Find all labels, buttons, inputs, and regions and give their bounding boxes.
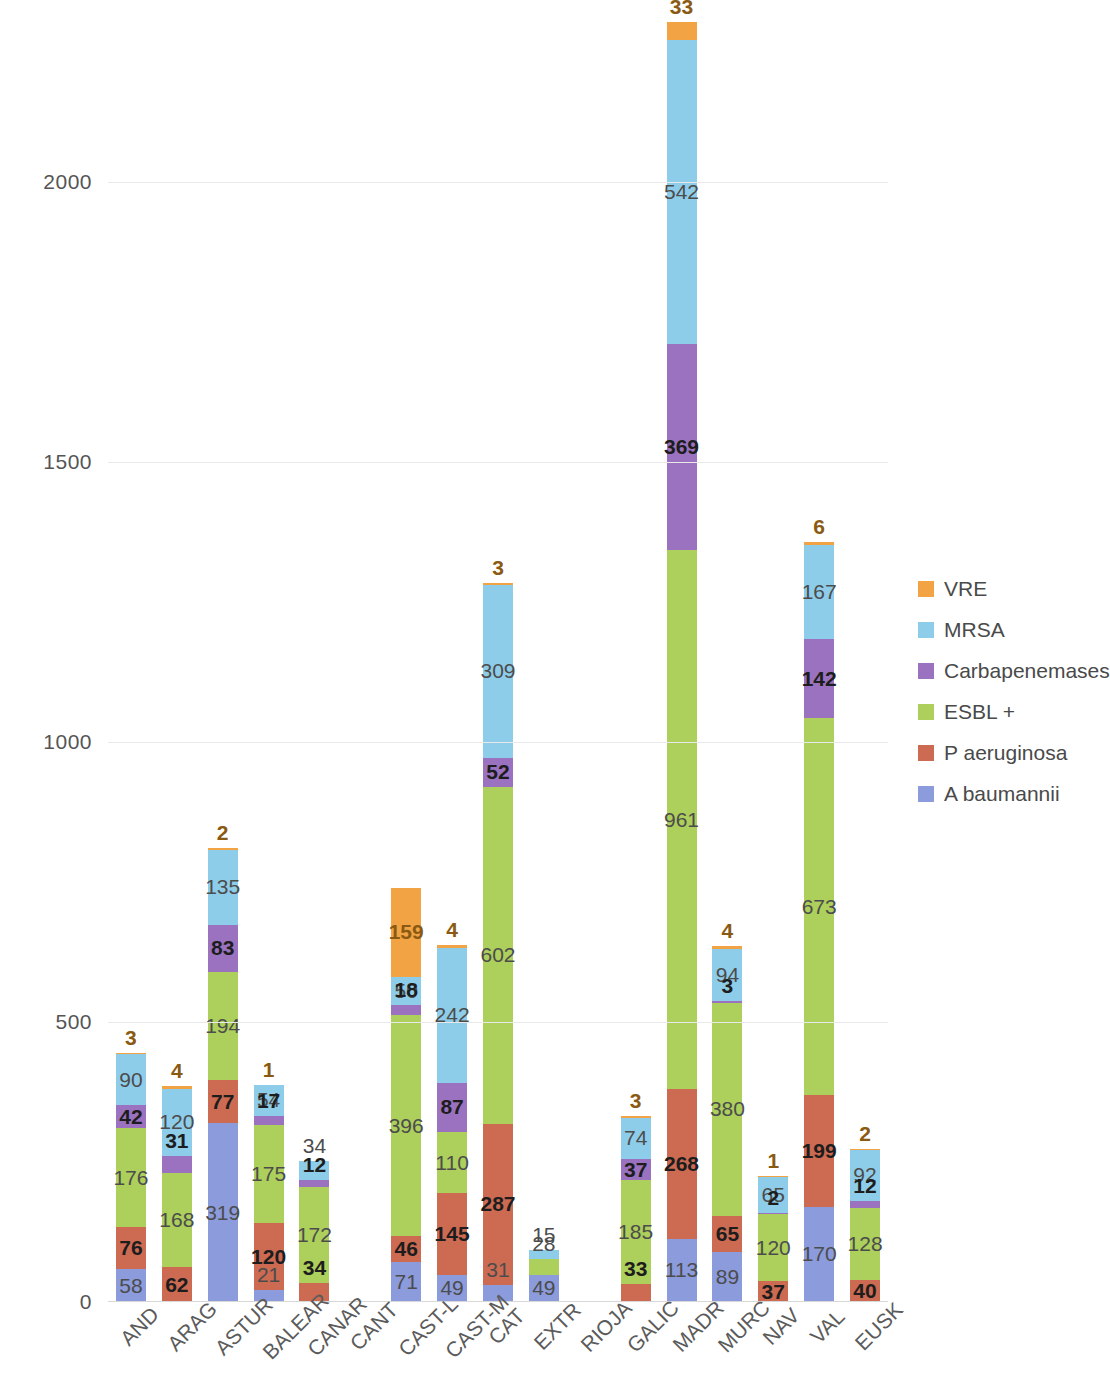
stacked-bar[interactable]: 21358319477319: [208, 848, 238, 1302]
stacked-bar[interactable]: 390421767658: [116, 1053, 146, 1302]
bar-segment[interactable]: 42: [116, 1105, 146, 1129]
bar-segment[interactable]: 37: [621, 1159, 651, 1180]
legend-item[interactable]: VRE: [918, 568, 1103, 609]
segment-value-label: 3: [492, 556, 504, 580]
segment-value-label: 961: [664, 808, 699, 832]
bar-segment[interactable]: 76: [116, 1227, 146, 1270]
bar-segment[interactable]: 28: [529, 1259, 559, 1275]
segment-value-label: 268: [664, 1152, 699, 1176]
bar-segment[interactable]: 90: [116, 1054, 146, 1104]
bar-segment[interactable]: 71: [391, 1262, 421, 1302]
bar-segment[interactable]: 17: [254, 1116, 284, 1126]
segment-value-label: 94: [716, 963, 739, 987]
bar-segment[interactable]: 369: [667, 344, 697, 551]
segment-value-label: 185: [618, 1220, 653, 1244]
legend-label: VRE: [944, 577, 987, 601]
bar-segment[interactable]: 113: [667, 1239, 697, 1302]
bar-segment[interactable]: 242: [437, 948, 467, 1084]
bar-segment[interactable]: 268: [667, 1089, 697, 1239]
bar-segment[interactable]: 34: [299, 1161, 329, 1180]
bar-segment[interactable]: 110: [437, 1132, 467, 1194]
x-axis-tick-text: EUSK: [850, 1298, 907, 1355]
bar-segment[interactable]: 120: [758, 1214, 788, 1281]
bar-segment[interactable]: 15: [529, 1250, 559, 1258]
bar-segment[interactable]: 50: [391, 977, 421, 1005]
stacked-bar[interactable]: 49433806589: [712, 946, 742, 1302]
bar-segment[interactable]: 54: [254, 1085, 284, 1115]
stacked-bar[interactable]: 15950183964671: [391, 888, 421, 1302]
bar-segment[interactable]: 175: [254, 1125, 284, 1223]
bar-slot: 1541717512021: [246, 14, 292, 1302]
stacked-bar[interactable]: 6167142673199170: [804, 542, 834, 1302]
bar-segment[interactable]: 309: [483, 585, 513, 758]
bar-segment[interactable]: 52: [483, 758, 513, 787]
bar-segment[interactable]: 167: [804, 545, 834, 639]
stacked-bar[interactable]: 2921212840: [850, 1149, 880, 1302]
stacked-bar[interactable]: 3743718533: [621, 1116, 651, 1302]
bar-segment[interactable]: 145: [437, 1193, 467, 1274]
bar-segment[interactable]: 33: [667, 22, 697, 40]
y-axis: 0500100015002000: [0, 14, 104, 1302]
bar-segment[interactable]: 142: [804, 639, 834, 719]
bar-segment[interactable]: 87: [437, 1083, 467, 1132]
legend-item[interactable]: Carbapenemases: [918, 650, 1103, 691]
bar-segment[interactable]: 120: [254, 1223, 284, 1290]
bar-segment[interactable]: 172: [299, 1187, 329, 1283]
bar-segment[interactable]: 18: [391, 1005, 421, 1015]
stacked-bar[interactable]: 341217234: [299, 1161, 329, 1302]
stacked-bar[interactable]: 42428711014549: [437, 945, 467, 1302]
bar-segment[interactable]: 287: [483, 1124, 513, 1285]
bar-segment[interactable]: 89: [712, 1252, 742, 1302]
bar-segment[interactable]: 33: [621, 1284, 651, 1302]
bar-segment[interactable]: 12: [299, 1180, 329, 1187]
bar-segment[interactable]: 12: [850, 1201, 880, 1208]
bar-segment[interactable]: 83: [208, 925, 238, 971]
segment-value-label: 40: [853, 1279, 876, 1303]
segment-value-label: 287: [480, 1192, 515, 1216]
stacked-bar[interactable]: 152849: [529, 1250, 559, 1302]
bar-segment[interactable]: 168: [162, 1173, 192, 1267]
bar-segment[interactable]: 74: [621, 1118, 651, 1159]
bar-segment[interactable]: 542: [667, 40, 697, 344]
bar-segment[interactable]: 185: [621, 1180, 651, 1284]
bar-segment[interactable]: 77: [208, 1080, 238, 1123]
bar-segment[interactable]: 194: [208, 972, 238, 1081]
stacked-bar[interactable]: 165212037: [758, 1176, 788, 1302]
bar-segment[interactable]: 49: [529, 1275, 559, 1302]
bar-segment[interactable]: 65: [758, 1177, 788, 1213]
legend-item[interactable]: P aeruginosa: [918, 732, 1103, 773]
bar-segment[interactable]: 170: [804, 1207, 834, 1302]
bar-segment[interactable]: 120: [162, 1089, 192, 1156]
legend-label: ESBL +: [944, 700, 1015, 724]
bar-segment[interactable]: 396: [391, 1015, 421, 1237]
legend-item[interactable]: MRSA: [918, 609, 1103, 650]
bar-segment[interactable]: 31: [162, 1156, 192, 1173]
bar-segment[interactable]: 199: [804, 1095, 834, 1206]
bar-segment[interactable]: 58: [116, 1269, 146, 1301]
bar-segment[interactable]: 128: [850, 1208, 880, 1280]
stacked-bar[interactable]: 33542369961268113: [667, 22, 697, 1302]
bar-segment[interactable]: 673: [804, 718, 834, 1095]
bar-segment[interactable]: 65: [712, 1216, 742, 1252]
x-axis-tick-label: CANAR: [292, 1306, 338, 1342]
stacked-bar[interactable]: 41203116862: [162, 1086, 192, 1302]
legend-item[interactable]: A baumannii: [918, 773, 1103, 814]
bar-segment[interactable]: 46: [391, 1236, 421, 1262]
bar-segment[interactable]: 62: [162, 1267, 192, 1302]
bar-segment[interactable]: 380: [712, 1003, 742, 1216]
legend-item[interactable]: ESBL +: [918, 691, 1103, 732]
bar-segment[interactable]: 602: [483, 787, 513, 1124]
legend-label: MRSA: [944, 618, 1005, 642]
bar-segment[interactable]: 40: [850, 1280, 880, 1302]
bar-segment[interactable]: 37: [758, 1281, 788, 1302]
bar-segment[interactable]: 961: [667, 550, 697, 1088]
bar-segment[interactable]: 176: [116, 1128, 146, 1227]
bar-segment[interactable]: 92: [850, 1150, 880, 1202]
bar-segment[interactable]: 319: [208, 1123, 238, 1302]
stacked-bar[interactable]: 1541717512021: [254, 1085, 284, 1302]
bar-segment[interactable]: 135: [208, 850, 238, 926]
bar-segment[interactable]: 159: [391, 888, 421, 977]
x-axis-tick-label: BALEAR: [246, 1306, 292, 1342]
bar-segment[interactable]: 94: [712, 949, 742, 1002]
stacked-bar[interactable]: 33095260228731: [483, 583, 513, 1302]
